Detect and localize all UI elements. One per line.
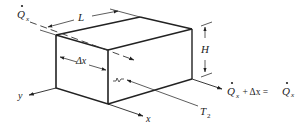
q-out-arrow xyxy=(192,79,222,89)
top-back-edge xyxy=(140,17,192,29)
temp-label: T 2 xyxy=(200,105,211,120)
svg-text:Q: Q xyxy=(282,85,290,97)
bottom-right-edge xyxy=(108,79,192,104)
top-left-edge xyxy=(56,17,140,35)
q-in-label: Q x xyxy=(17,5,30,23)
energy-balance-equation: Q x + Δx = Q x xyxy=(227,82,295,100)
svg-text:x: x xyxy=(25,15,30,23)
svg-text:Q: Q xyxy=(17,8,25,20)
length-label: L xyxy=(77,11,84,23)
svg-text:2: 2 xyxy=(207,112,211,120)
x-axis-arrow xyxy=(108,104,143,116)
svg-text:T: T xyxy=(200,105,207,117)
svg-text:Q: Q xyxy=(227,85,235,97)
front-face xyxy=(56,35,108,104)
slice-label: Δx xyxy=(75,55,87,66)
top-right-edge xyxy=(108,29,192,50)
temp-squiggle-icon xyxy=(113,78,124,82)
y-axis-arrow xyxy=(29,88,56,95)
y-axis-label: y xyxy=(17,90,23,101)
control-volume-diagram: L Δx H Q x y x T 2 Q x + Δx = Q x xyxy=(0,0,302,129)
svg-text:x: x xyxy=(290,91,295,99)
height-label: H xyxy=(200,43,210,55)
x-axis-label: x xyxy=(145,113,151,124)
dot-accent-icon xyxy=(21,5,23,7)
temp-leader-line xyxy=(127,80,198,106)
svg-text:+ Δx =: + Δx = xyxy=(240,87,271,97)
